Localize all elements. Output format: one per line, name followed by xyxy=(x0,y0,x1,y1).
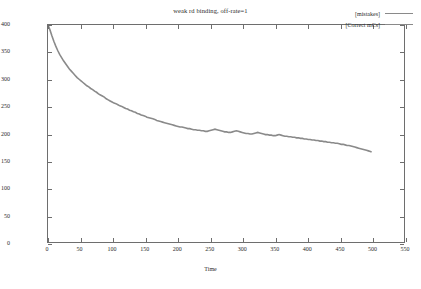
y-tick-mark xyxy=(48,244,52,245)
x-axis-label: Time xyxy=(0,266,421,272)
x-tick-mark xyxy=(178,25,179,29)
x-tick-mark xyxy=(178,238,179,242)
y-tick-label: 300 xyxy=(0,76,10,82)
x-tick-mark xyxy=(113,25,114,29)
legend-label-correct-mcs: [Correct mCs] xyxy=(346,22,381,28)
y-tick-label: 100 xyxy=(0,185,10,191)
legend-item-mistakes: [mistakes] xyxy=(346,8,414,19)
x-tick-mark xyxy=(308,238,309,242)
chart-legend: [mistakes] [Correct mCs] xyxy=(346,8,414,30)
y-tick-label: 50 xyxy=(0,213,10,219)
x-tick-mark xyxy=(48,238,49,242)
y-tick-mark xyxy=(400,107,404,108)
x-tick-mark xyxy=(341,25,342,29)
y-tick-mark xyxy=(400,217,404,218)
x-tick-mark xyxy=(276,25,277,29)
y-tick-label: 200 xyxy=(0,131,10,137)
y-tick-label: 0 xyxy=(0,240,10,246)
x-tick-mark xyxy=(308,25,309,29)
y-tick-mark xyxy=(48,107,52,108)
x-tick-mark xyxy=(146,238,147,242)
legend-label-mistakes: [mistakes] xyxy=(355,11,380,17)
x-tick-mark xyxy=(276,238,277,242)
y-tick-mark xyxy=(400,80,404,81)
x-tick-mark xyxy=(146,25,147,29)
x-tick-mark xyxy=(243,25,244,29)
y-tick-mark xyxy=(48,189,52,190)
x-tick-mark xyxy=(211,238,212,242)
x-tick-mark xyxy=(406,238,407,242)
y-tick-mark xyxy=(48,52,52,53)
plot-area xyxy=(47,24,405,243)
x-tick-mark xyxy=(341,238,342,242)
y-tick-mark xyxy=(48,217,52,218)
x-tick-mark xyxy=(211,25,212,29)
x-tick-mark xyxy=(48,25,49,29)
x-tick-mark xyxy=(243,238,244,242)
y-tick-label: 250 xyxy=(0,103,10,109)
x-tick-mark xyxy=(113,238,114,242)
legend-line-swatch-correct-mcs xyxy=(385,24,413,25)
y-tick-mark xyxy=(400,52,404,53)
legend-line-swatch-mistakes xyxy=(385,13,413,14)
x-tick-label: 550 xyxy=(385,246,421,252)
chart-container: weak rd binding, off-rate=1 Number Time … xyxy=(0,0,421,289)
series-line-mistakes xyxy=(48,25,404,242)
y-tick-mark xyxy=(400,135,404,136)
legend-item-correct-mcs: [Correct mCs] xyxy=(346,19,414,30)
y-tick-mark xyxy=(48,135,52,136)
x-tick-mark xyxy=(81,238,82,242)
y-tick-mark xyxy=(48,80,52,81)
y-tick-label: 350 xyxy=(0,48,10,54)
y-tick-label: 400 xyxy=(0,21,10,27)
y-tick-mark xyxy=(400,162,404,163)
y-tick-mark xyxy=(48,162,52,163)
y-tick-mark xyxy=(400,244,404,245)
y-tick-mark xyxy=(400,189,404,190)
x-tick-mark xyxy=(373,238,374,242)
x-tick-mark xyxy=(81,25,82,29)
y-tick-label: 150 xyxy=(0,158,10,164)
